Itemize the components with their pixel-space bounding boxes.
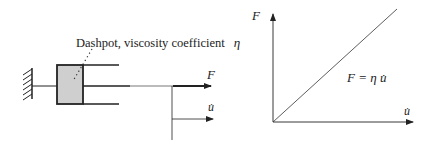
- dashpot-caption: Dashpot, viscosity coefficient η: [76, 35, 240, 50]
- dashpot-caption-text: Dashpot, viscosity coefficient: [76, 36, 225, 50]
- force-velocity-graph: F u̇ F = η u̇: [251, 8, 413, 122]
- y-axis-label: F: [251, 8, 261, 23]
- force-label: F: [206, 67, 216, 82]
- x-axis-label: u̇: [404, 104, 410, 118]
- dashpot-figure: F u̇ Dashpot, viscosity coefficient η F …: [0, 0, 430, 148]
- dashpot-model: F u̇ Dashpot, viscosity coefficient η: [23, 35, 240, 140]
- linear-response-line: [273, 9, 397, 122]
- velocity-label: u̇: [208, 100, 214, 114]
- viscosity-symbol: η: [234, 35, 240, 50]
- fixed-wall-icon: [23, 68, 32, 100]
- equation-label: F = η u̇: [346, 70, 387, 85]
